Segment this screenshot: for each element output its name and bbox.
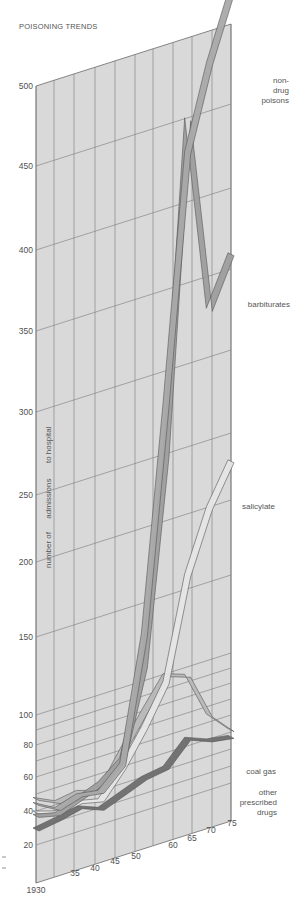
label-non-drug-poisons: non- drug poisons [244,76,289,106]
svg-text:80: 80 [24,740,34,750]
svg-text:500: 500 [19,81,33,91]
svg-text:250: 250 [19,490,33,500]
svg-text:40: 40 [24,806,34,816]
svg-text:100: 100 [19,710,33,720]
svg-text:60: 60 [168,840,178,850]
svg-text:60: 60 [24,772,34,782]
svg-text:45: 45 [110,856,120,866]
svg-text:400: 400 [19,245,33,255]
label-salicylate: salicylate [232,502,275,512]
svg-text:20: 20 [24,840,34,850]
svg-text:350: 350 [19,326,33,336]
svg-text:1930: 1930 [27,885,46,895]
svg-text:150: 150 [19,632,33,642]
svg-text:450: 450 [19,161,33,171]
label-coal-gas: coal gas [232,767,276,777]
svg-text:50: 50 [131,851,141,861]
svg-text:70: 70 [206,825,216,835]
svg-text:35: 35 [70,868,80,878]
svg-text:300: 300 [19,407,33,417]
label-other-prescribed-drugs: other prescribed drugs [226,788,277,818]
svg-text:40: 40 [90,863,100,873]
y-axis-title: number of admissions to hospital [44,427,53,568]
svg-text:200: 200 [19,557,33,567]
svg-text:65: 65 [187,833,197,843]
label-barbiturates: barbiturates [228,300,290,310]
svg-text:75: 75 [227,818,237,828]
